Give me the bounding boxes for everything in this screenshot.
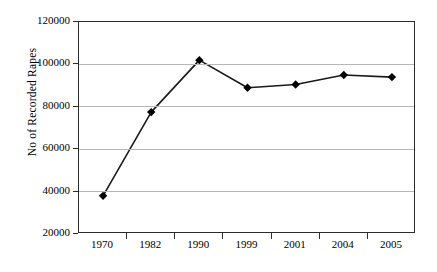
x-axis-tick-mark xyxy=(174,233,175,239)
data-point-marker xyxy=(291,80,299,88)
x-axis-tick-mark xyxy=(222,233,223,239)
gridline xyxy=(79,106,414,107)
gridline xyxy=(79,191,414,192)
y-axis-tick-label: 80000 xyxy=(8,100,70,111)
x-axis-tick-mark xyxy=(271,233,272,239)
x-axis-tick-mark xyxy=(367,233,368,239)
plot-area xyxy=(78,21,415,233)
series-line xyxy=(103,60,392,196)
line-series xyxy=(79,22,416,234)
y-axis-tick-label: 100000 xyxy=(8,57,70,68)
x-axis-tick-mark xyxy=(126,233,127,239)
y-axis-tick-mark xyxy=(73,233,78,234)
data-point-marker xyxy=(99,192,107,200)
data-point-marker xyxy=(388,73,396,81)
y-axis-tick-label: 60000 xyxy=(8,142,70,153)
gridline xyxy=(79,64,414,65)
x-axis-tick-mark xyxy=(319,233,320,239)
y-axis-tick-label: 120000 xyxy=(8,15,70,26)
y-axis-tick-label: 40000 xyxy=(8,185,70,196)
data-point-marker xyxy=(243,84,251,92)
y-axis-tick-label: 20000 xyxy=(8,227,70,238)
gridline xyxy=(79,149,414,150)
data-point-marker xyxy=(340,71,348,79)
x-axis-tick-labels: 1970198219901999200120042005 xyxy=(78,238,415,258)
x-axis-tick-label: 2005 xyxy=(361,238,421,251)
chart-container: No of Recorded Rapes 2000040000600008000… xyxy=(0,0,437,272)
